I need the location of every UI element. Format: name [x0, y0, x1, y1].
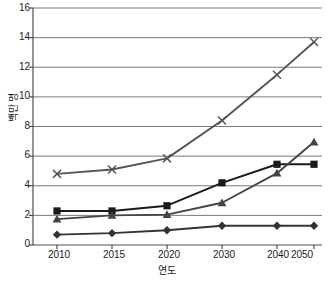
marker-triangle [310, 138, 319, 146]
marker-diamond [108, 229, 116, 237]
marker-x [218, 117, 226, 125]
marker-square [163, 202, 170, 209]
marker-diamond [218, 222, 226, 230]
series-x [53, 38, 318, 178]
marker-square [218, 179, 225, 186]
marker-diamond [273, 222, 281, 230]
gridlines [33, 8, 322, 215]
marker-x [310, 38, 318, 46]
marker-x [273, 71, 281, 79]
marker-square [273, 161, 280, 168]
marker-square [53, 207, 60, 214]
marker-diamond [310, 222, 318, 230]
series-square [53, 161, 317, 215]
series-line [57, 142, 314, 219]
marker-triangle [218, 198, 227, 206]
series-line [57, 42, 314, 174]
plot-area [0, 0, 333, 281]
series-diamond [53, 222, 318, 239]
line-chart: 백만 명 16 14 12 10 8 6 4 2 0 2010 2015 202… [0, 0, 333, 281]
marker-diamond [53, 230, 61, 238]
marker-diamond [163, 226, 171, 234]
data-series-layer [53, 38, 319, 239]
series-triangle [53, 138, 319, 223]
marker-square [310, 161, 317, 168]
